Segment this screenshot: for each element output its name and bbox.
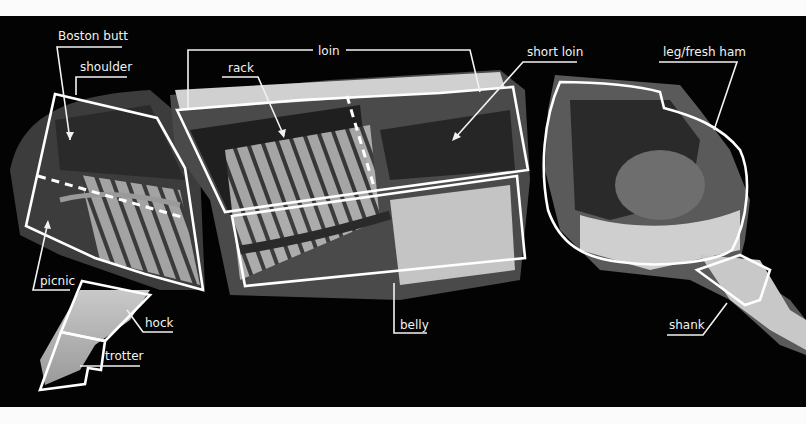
- leg-section: [545, 75, 806, 355]
- label-rack: rack: [228, 61, 254, 75]
- label-shank: shank: [669, 318, 705, 332]
- label-boston-butt: Boston butt: [58, 29, 128, 43]
- label-shoulder: shoulder: [80, 60, 132, 74]
- loin-belly-section: [170, 70, 530, 300]
- top-margin: [0, 0, 806, 16]
- bottom-margin: [0, 407, 806, 424]
- label-short-loin: short loin: [527, 45, 583, 59]
- label-loin: loin: [318, 44, 340, 58]
- shoulder-leader: [76, 77, 127, 95]
- diagram-canvas: Boston butt shoulder loin rack short loi…: [0, 16, 806, 407]
- label-leg-fresh-ham: leg/fresh ham: [663, 45, 746, 59]
- label-hock: hock: [145, 316, 174, 330]
- label-trotter: trotter: [105, 349, 144, 363]
- label-belly: belly: [400, 318, 429, 332]
- pork-cuts-diagram: Boston butt shoulder loin rack short loi…: [0, 16, 806, 407]
- label-picnic: picnic: [40, 274, 75, 288]
